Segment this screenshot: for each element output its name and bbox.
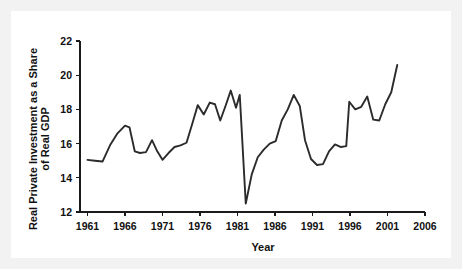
x-tick-label: 1966: [113, 220, 137, 232]
y-tick-labels: 121416182022: [60, 35, 72, 218]
y-tick-label: 14: [60, 172, 72, 184]
y-axis-title: Real Private Investment as a Share of Re…: [27, 48, 51, 230]
x-tick-marks: [88, 212, 426, 216]
y-axis-title-line2: of Real GDP: [39, 107, 51, 171]
x-tick-label: 2001: [376, 220, 400, 232]
data-series-line: [88, 65, 398, 204]
y-axis-title-line1: Real Private Investment as a Share: [27, 48, 39, 230]
x-axis-title: Year: [251, 241, 275, 253]
screenshot-root: Real Private Investment as a Share of Re…: [0, 0, 462, 269]
y-tick-label: 20: [60, 69, 72, 81]
x-tick-label: 1981: [226, 220, 250, 232]
x-tick-label: 1986: [263, 220, 287, 232]
y-tick-label: 12: [60, 206, 72, 218]
y-tick-marks: [76, 41, 80, 212]
x-tick-label: 1991: [301, 220, 325, 232]
y-tick-label: 22: [60, 35, 72, 47]
x-tick-label: 1961: [76, 220, 100, 232]
x-tick-label: 1996: [338, 220, 362, 232]
y-tick-label: 18: [60, 103, 72, 115]
y-tick-label: 16: [60, 138, 72, 150]
x-tick-label: 2006: [413, 220, 437, 232]
x-tick-labels: 1961196619711976198119861991199620012006: [76, 220, 437, 232]
x-tick-label: 1976: [188, 220, 212, 232]
chart-svg: Real Private Investment as a Share of Re…: [11, 11, 451, 258]
x-tick-label: 1971: [151, 220, 175, 232]
line-chart: Real Private Investment as a Share of Re…: [11, 11, 451, 258]
figure-card: Real Private Investment as a Share of Re…: [11, 11, 451, 258]
